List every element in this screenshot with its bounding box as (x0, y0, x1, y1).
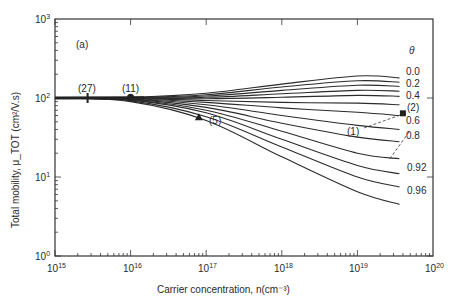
x-tick-labels: 1015 1016 1017 1018 1019 1020 (47, 262, 444, 274)
y-tick-1e2: 102 (35, 92, 50, 104)
y-tick-1e3: 103 (35, 13, 50, 25)
point-label-27: (27) (78, 83, 96, 94)
legend-title-theta: θ (409, 45, 415, 56)
curve-label-0-0: 0.0 (406, 66, 420, 77)
curve-label-0-4: 0.4 (406, 90, 420, 101)
marker-11 (127, 94, 134, 101)
mobility-chart: 103 102 101 100 1015 1016 1017 1018 1019… (0, 0, 457, 304)
curve-label-0-6: 0.6 (406, 115, 420, 126)
curve-label-0-96: 0.96 (407, 185, 427, 196)
curve-labels: 0.0 0.2 0.4 0.6 0.8 0.92 0.96 (406, 66, 427, 196)
y-tick-1e0: 100 (35, 250, 50, 262)
curve-label-0-8: 0.8 (406, 130, 420, 141)
x-axis-title: Carrier concentration, n(cm⁻³) (157, 284, 290, 295)
x-tick-1e16: 1016 (123, 262, 142, 274)
x-tick-1e18: 1018 (274, 262, 293, 274)
theta-curves (55, 76, 399, 205)
curve-label-0-92: 0.92 (407, 162, 427, 173)
x-tick-1e17: 1017 (198, 262, 217, 274)
y-tick-1e1: 101 (35, 171, 50, 183)
x-tick-1e20: 1020 (425, 262, 444, 274)
point-label-2: (2) (407, 102, 419, 113)
panel-label: (a) (76, 39, 88, 50)
curve-label-0-2: 0.2 (406, 78, 420, 89)
y-tick-labels: 103 102 101 100 (35, 13, 50, 262)
x-tick-1e19: 1019 (349, 262, 368, 274)
point-label-1: (1) (347, 126, 359, 137)
leader-line-1 (364, 114, 403, 128)
point-label-11: (11) (122, 83, 139, 94)
point-label-5: (5) (209, 115, 221, 126)
x-tick-1e15: 1015 (47, 262, 66, 274)
y-axis-title: Total mobility, μ_TOT (cm²/V.s) (10, 92, 21, 228)
